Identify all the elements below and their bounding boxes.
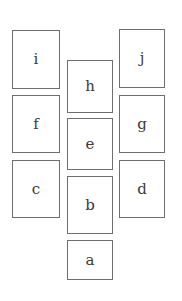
box-f: f: [12, 95, 60, 153]
box-label-h: h: [85, 79, 95, 94]
box-label-d: d: [137, 182, 147, 197]
box-h: h: [67, 60, 113, 113]
box-g: g: [119, 95, 165, 153]
box-c: c: [12, 160, 60, 218]
box-label-i: i: [34, 52, 39, 67]
box-label-f: f: [33, 117, 39, 132]
box-label-j: j: [140, 51, 145, 66]
box-label-a: a: [86, 253, 95, 268]
box-a: a: [67, 240, 113, 280]
box-label-b: b: [85, 198, 95, 213]
box-label-c: c: [32, 182, 40, 197]
box-d: d: [119, 160, 165, 218]
box-j: j: [119, 29, 165, 88]
box-label-e: e: [86, 137, 95, 152]
box-b: b: [67, 176, 113, 234]
box-label-g: g: [137, 117, 147, 132]
box-e: e: [67, 118, 113, 170]
box-i: i: [12, 30, 60, 89]
